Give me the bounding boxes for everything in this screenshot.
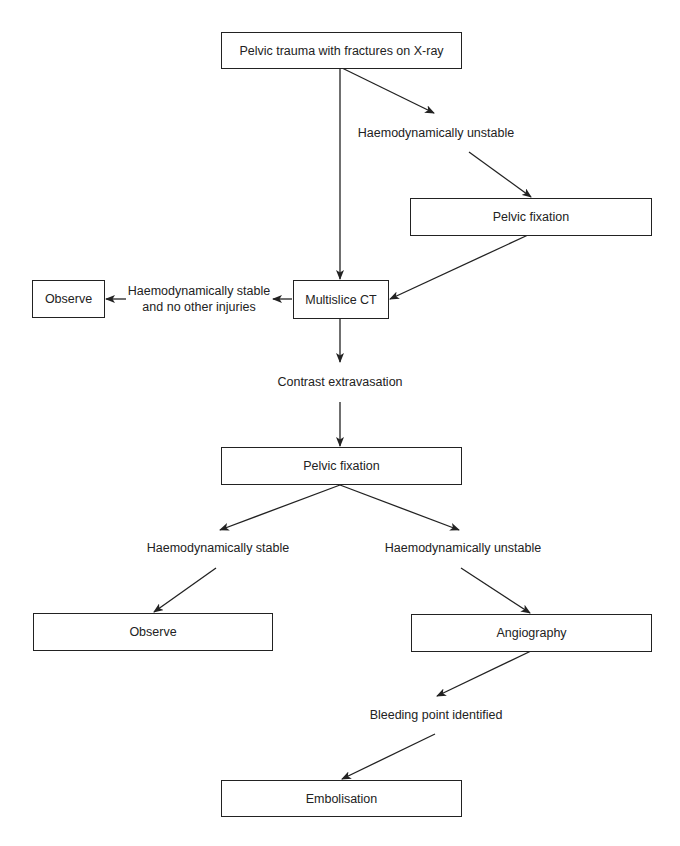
node-pelvic-fixation-2: Pelvic fixation <box>221 447 462 485</box>
node-start: Pelvic trauma with fractures on X-ray <box>221 32 462 69</box>
arrow-fixation-to-ct <box>390 235 528 299</box>
node-multislice-ct: Multislice CT <box>293 280 389 319</box>
node-observe-1: Observe <box>32 280 105 318</box>
arrow-stable-to-observe <box>154 568 216 612</box>
arrow-unstable-to-fixation <box>469 152 531 197</box>
node-angiography: Angiography <box>411 614 652 652</box>
arrow-unstable-to-angiography <box>461 568 530 613</box>
label-unstable-2: Haemodynamically unstable <box>385 540 541 556</box>
node-angiography-label: Angiography <box>496 626 566 640</box>
label-stable-line1: Haemodynamically stable <box>128 283 270 299</box>
arrow-start-to-unstable <box>342 68 434 113</box>
arrow-angiography-to-bleeding <box>437 651 531 696</box>
arrow-fixation-to-unstable <box>340 485 459 530</box>
node-pelvic-fixation-1: Pelvic fixation <box>410 198 652 236</box>
label-bleeding-point: Bleeding point identified <box>370 707 503 723</box>
node-multislice-ct-label: Multislice CT <box>305 293 377 307</box>
node-observe-2-label: Observe <box>129 625 176 639</box>
node-pelvic-fixation-1-label: Pelvic fixation <box>493 210 569 224</box>
label-contrast-extravasation: Contrast extravasation <box>277 374 402 390</box>
node-embolisation-label: Embolisation <box>306 792 378 806</box>
node-observe-2: Observe <box>33 613 273 651</box>
label-stable-2: Haemodynamically stable <box>147 540 289 556</box>
flowchart-connectors <box>0 0 680 846</box>
arrow-bleeding-to-embolisation <box>342 734 435 779</box>
arrow-fixation-to-stable <box>220 485 340 530</box>
label-unstable-1: Haemodynamically unstable <box>358 125 514 141</box>
label-stable-no-injuries: Haemodynamically stable and no other inj… <box>128 283 270 315</box>
node-pelvic-fixation-2-label: Pelvic fixation <box>303 459 379 473</box>
node-start-label: Pelvic trauma with fractures on X-ray <box>239 44 443 58</box>
node-embolisation: Embolisation <box>221 780 462 817</box>
node-observe-1-label: Observe <box>45 292 92 306</box>
label-stable-line2: and no other injuries <box>128 299 270 315</box>
